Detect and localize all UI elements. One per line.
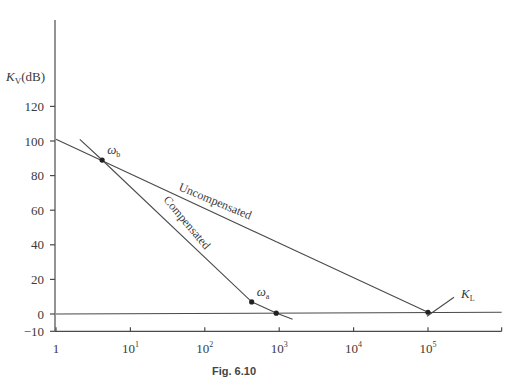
y-tick-label: 60	[31, 203, 44, 218]
series-lines	[56, 139, 502, 319]
x-tick-exponent: 1	[135, 340, 139, 349]
unity-point	[274, 311, 279, 316]
bode-chart: 120100806040200−10 1101102103104105 ωbωa…	[0, 0, 519, 392]
x-tick-label: 105	[420, 340, 437, 356]
axes	[55, 20, 502, 331]
y-tick-label: 0	[38, 307, 45, 322]
x-tick-exponent: 4	[358, 340, 362, 349]
omega-a-label: ωa	[257, 284, 270, 301]
x-tick-exponent: 5	[433, 340, 437, 349]
k-l-leader-line	[427, 297, 454, 316]
markers: ωbωaKL	[100, 142, 475, 316]
omega-b-label: ωb	[107, 142, 120, 159]
x-tick-base: 1	[53, 341, 60, 356]
y-tick-label: −10	[24, 324, 44, 339]
x-tick-base: 10	[420, 341, 433, 356]
y-tick-label: 100	[25, 134, 45, 149]
x-tick-exponent: 3	[284, 340, 288, 349]
k-l-label: KL	[460, 286, 475, 303]
y-ticks: 120100806040200−10	[24, 99, 55, 339]
x-tick-label: 104	[345, 340, 362, 356]
x-tick-label: 101	[122, 340, 139, 356]
x-tick-base: 10	[122, 341, 135, 356]
omega-b-point	[100, 157, 105, 162]
figure-caption: Fig. 6.10	[212, 365, 256, 377]
y-tick-label: 80	[31, 168, 44, 183]
y-tick-label: 20	[31, 272, 44, 287]
x-tick-label: 1	[53, 341, 60, 356]
uncompensated-line	[56, 139, 428, 312]
y-tick-label: 40	[31, 237, 44, 252]
y-axis-label-unit: (dB)	[21, 69, 45, 84]
x-tick-base: 10	[196, 341, 209, 356]
omega-a-point	[249, 299, 254, 304]
y-tick-label: 120	[25, 99, 45, 114]
x-tick-base: 10	[271, 341, 284, 356]
x-tick-exponent: 2	[209, 340, 213, 349]
x-tick-label: 102	[196, 340, 213, 356]
x-tick-base: 10	[345, 341, 358, 356]
x-tick-label: 103	[271, 340, 288, 356]
y-axis-label: KV(dB)	[5, 69, 45, 86]
